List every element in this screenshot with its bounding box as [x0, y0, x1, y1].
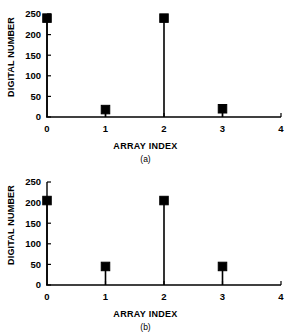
- x-tick-label-a-1: 1: [103, 123, 109, 134]
- y-tick-label-a-5: 250: [25, 8, 41, 19]
- y-tick-label-a-1: 50: [30, 91, 41, 102]
- x-axis-label-a: ARRAY INDEX: [0, 141, 291, 151]
- data-point-a-2: [160, 14, 169, 22]
- x-tick-label-b-3: 3: [220, 291, 225, 302]
- data-point-a-1: [101, 105, 110, 114]
- y-tick-label-b-1: 50: [30, 259, 41, 270]
- stem-plot-a: 05010015020025001234: [0, 0, 291, 140]
- y-tick-label-a-3: 150: [25, 50, 41, 61]
- panel-caption-b: (b): [0, 322, 291, 332]
- x-tick-label-a-2: 2: [161, 123, 166, 134]
- y-tick-label-a-4: 200: [25, 29, 41, 40]
- x-tick-label-b-1: 1: [103, 291, 109, 302]
- x-axis-label-b: ARRAY INDEX: [0, 309, 291, 319]
- data-point-a-3: [218, 105, 227, 114]
- y-tick-label-b-4: 200: [25, 197, 41, 208]
- data-point-a-0: [43, 14, 52, 22]
- x-tick-label-b-2: 2: [161, 291, 166, 302]
- x-tick-label-a-0: 0: [44, 123, 49, 134]
- y-axis-label-b: DIGITAL NUMBER: [6, 173, 16, 277]
- data-point-b-3: [218, 262, 227, 271]
- y-axis-label-a: DIGITAL NUMBER: [6, 5, 16, 109]
- data-point-b-2: [160, 196, 169, 205]
- chart-panel-b: 05010015020025001234 DIGITAL NUMBER ARRA…: [0, 168, 291, 335]
- data-point-b-1: [101, 262, 110, 271]
- y-tick-label-a-0: 0: [36, 111, 41, 122]
- y-tick-label-b-5: 250: [25, 176, 41, 187]
- x-tick-label-b-0: 0: [44, 291, 49, 302]
- y-tick-label-b-3: 150: [25, 218, 41, 229]
- y-tick-label-a-2: 100: [25, 70, 41, 81]
- chart-panel-a: 05010015020025001234 DIGITAL NUMBER ARRA…: [0, 0, 291, 168]
- plot-area-b: 05010015020025001234 DIGITAL NUMBER: [0, 168, 291, 308]
- y-tick-label-b-2: 100: [25, 238, 41, 249]
- panel-caption-a: (a): [0, 154, 291, 164]
- stem-plot-b: 05010015020025001234: [0, 168, 291, 308]
- plot-area-a: 05010015020025001234 DIGITAL NUMBER: [0, 0, 291, 140]
- x-tick-label-b-4: 4: [278, 291, 284, 302]
- x-tick-label-a-4: 4: [278, 123, 284, 134]
- data-point-b-0: [43, 196, 52, 205]
- x-tick-label-a-3: 3: [220, 123, 225, 134]
- y-tick-label-b-0: 0: [36, 279, 41, 290]
